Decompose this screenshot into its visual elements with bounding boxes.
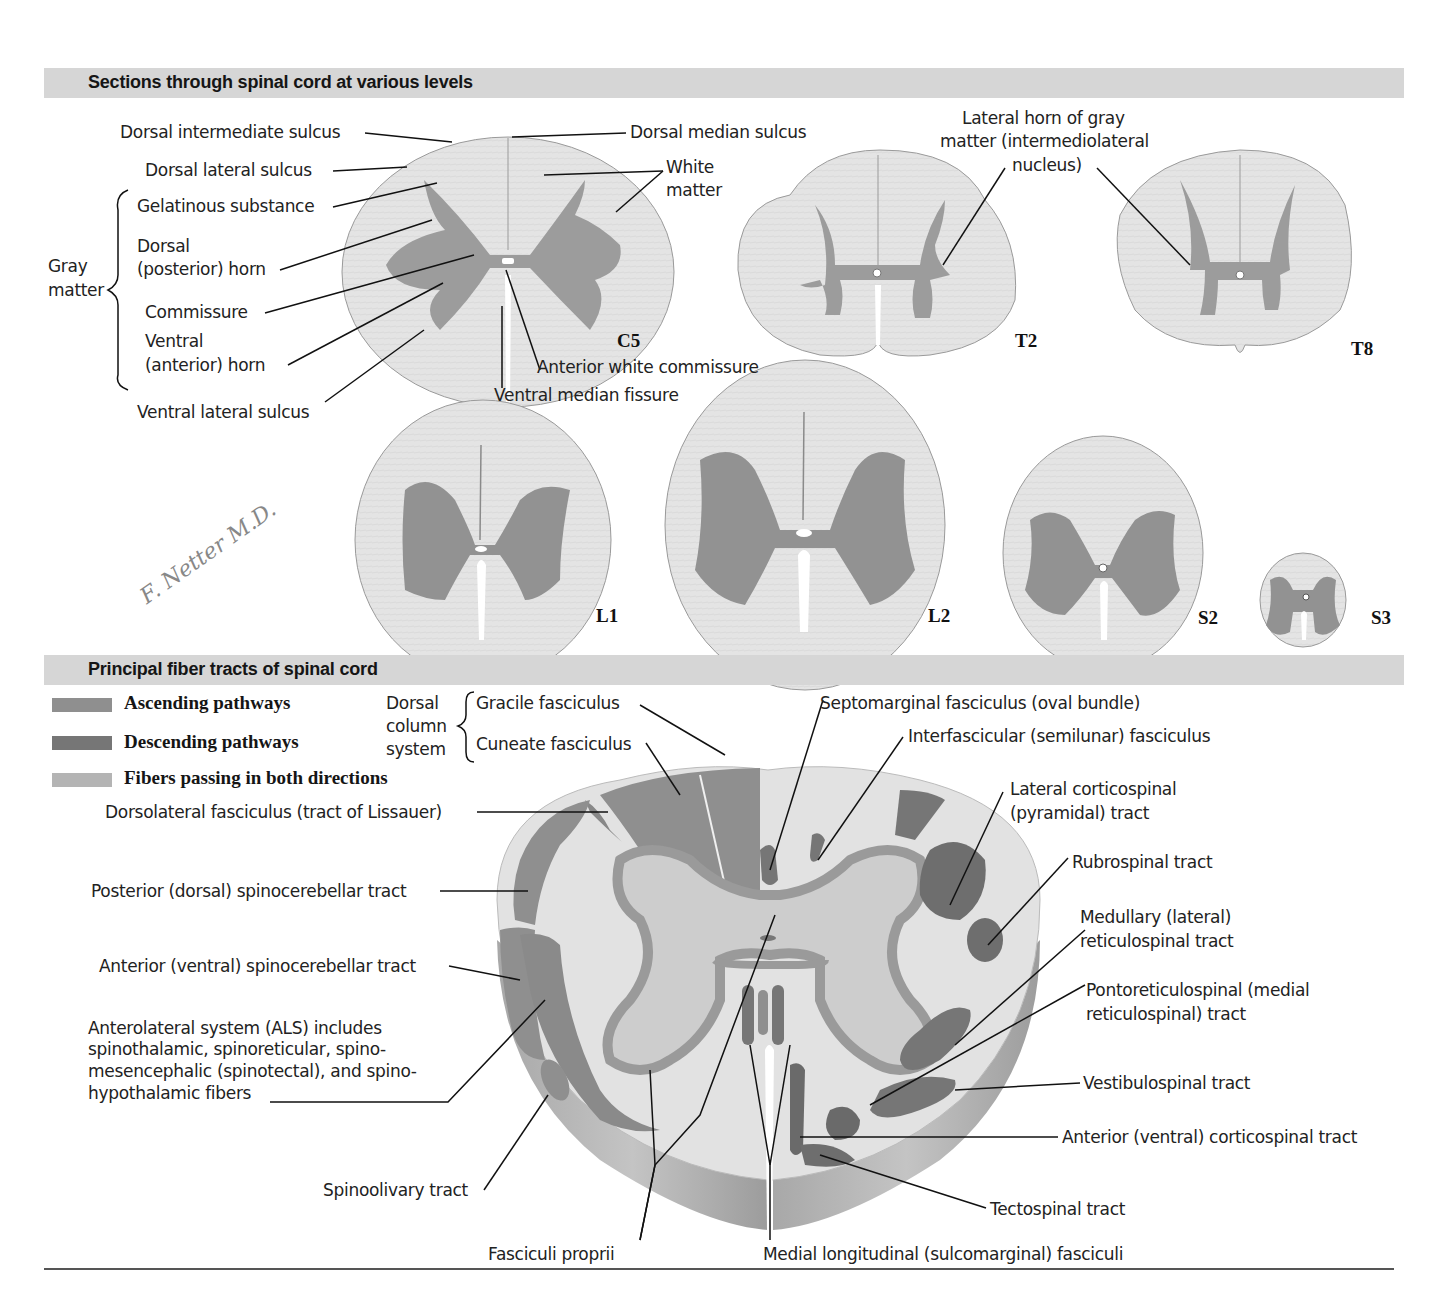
level-label-l2: L2 [928,605,950,627]
label-posterior-spinocerebellar: Posterior (dorsal) spinocerebellar tract [91,881,406,901]
label-cuneate-fasciculus: Cuneate fasciculus [476,734,631,754]
section2-title: Principal fiber tracts of spinal cord [88,659,378,680]
level-label-s3: S3 [1371,607,1391,629]
label-ventral-median-fissure: Ventral median fissure [494,385,679,405]
label-rubrospinal: Rubrospinal tract [1072,852,1212,872]
label-lateral-horn-line1: Lateral horn of gray [962,108,1125,128]
label-lissauer: Dorsolateral fasciculus (tract of Lissau… [105,802,442,822]
label-ventral-horn-line1: Ventral [145,331,203,351]
label-als-line1: Anterolateral system (ALS) includes [88,1018,382,1038]
section-l1 [355,400,611,680]
label-dorsal-horn-line2: (posterior) horn [137,259,266,279]
section-s3 [1260,553,1346,647]
label-anterior-corticospinal: Anterior (ventral) corticospinal tract [1062,1127,1357,1147]
label-interfascicular: Interfascicular (semilunar) fasciculus [908,726,1210,746]
label-white-matter-line2: matter [666,180,722,200]
label-gracile-fasciculus: Gracile fasciculus [476,693,620,713]
level-label-c5: C5 [617,330,640,352]
label-dorsal-median-sulcus: Dorsal median sulcus [630,122,806,142]
label-anterior-white-commissure: Anterior white commissure [537,357,759,377]
label-medullary-line1: Medullary (lateral) [1080,907,1231,927]
label-anterior-spinocerebellar: Anterior (ventral) spinocerebellar tract [99,956,416,976]
legend-swatch-both [52,773,112,787]
label-gelatinous-substance: Gelatinous substance [137,196,314,216]
level-label-t8: T8 [1351,338,1373,360]
level-label-t2: T2 [1015,330,1037,352]
label-gray-matter-line2: matter [48,280,104,300]
label-ventral-horn-line2: (anterior) horn [145,355,265,375]
label-als-line4: hypothalamic fibers [88,1083,251,1103]
label-dorsal-horn-line1: Dorsal [137,236,190,256]
label-lateral-corticospinal-line2: (pyramidal) tract [1010,803,1149,823]
legend-label-descending: Descending pathways [124,731,299,753]
label-als-line3: mesencephalic (spinotectal), and spino- [88,1061,417,1081]
label-lateral-corticospinal-line1: Lateral corticospinal [1010,779,1176,799]
legend-label-both: Fibers passing in both directions [124,767,388,789]
label-fasciculi-proprii: Fasciculi proprii [488,1244,614,1264]
label-septomarginal: Septomarginal fasciculus (oval bundle) [820,693,1140,713]
label-als-line2: spinothalamic, spinoreticular, spino- [88,1039,386,1059]
label-dorsal-column-line3: system [386,739,446,759]
label-pontoreticulospinal-line2: reticulospinal) tract [1086,1004,1246,1024]
label-lateral-horn-line2: matter (intermediolateral [940,131,1149,151]
label-dorsal-lateral-sulcus: Dorsal lateral sulcus [145,160,312,180]
section-t8 [1117,150,1351,353]
label-dorsal-intermediate-sulcus: Dorsal intermediate sulcus [120,122,340,142]
label-lateral-horn-line3: nucleus) [1012,155,1082,175]
label-vestibulospinal: Vestibulospinal tract [1083,1073,1250,1093]
section-l2 [665,360,945,690]
level-label-s2: S2 [1198,607,1218,629]
label-tectospinal: Tectospinal tract [990,1199,1125,1219]
label-medullary-line2: reticulospinal tract [1080,931,1233,951]
label-ventral-lateral-sulcus: Ventral lateral sulcus [137,402,309,422]
level-label-l1: L1 [596,605,618,627]
bottom-divider [44,1268,1394,1270]
label-dorsal-column-line2: column [386,716,447,736]
label-medial-longitudinal: Medial longitudinal (sulcomarginal) fasc… [763,1244,1123,1264]
section-s2 [1003,436,1203,670]
label-gray-matter-line1: Gray [48,256,87,276]
legend-swatch-ascending [52,698,112,712]
label-white-matter-line1: White [666,157,714,177]
section-t2 [738,150,1016,356]
legend-swatch-descending [52,736,112,750]
label-pontoreticulospinal-line1: Pontoreticulospinal (medial [1086,980,1310,1000]
label-spinoolivary: Spinoolivary tract [323,1180,468,1200]
label-dorsal-column-line1: Dorsal [386,693,439,713]
legend-label-ascending: Ascending pathways [124,692,290,714]
label-commissure: Commissure [145,302,248,322]
